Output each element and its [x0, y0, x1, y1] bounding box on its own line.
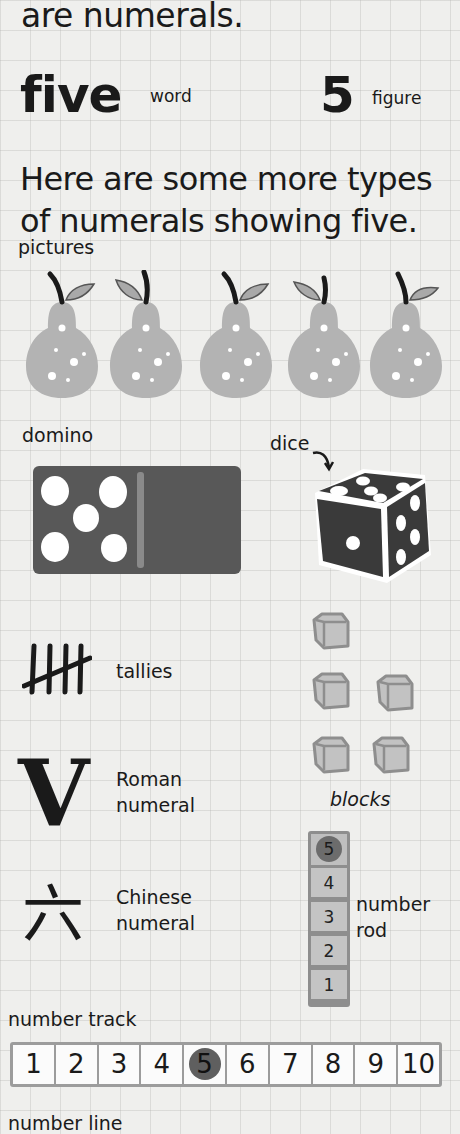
- pear-icon: [26, 274, 98, 398]
- tallies-label: tallies: [116, 660, 173, 682]
- domino-pip: [101, 534, 127, 562]
- intro-text: are numerals.: [21, 0, 243, 35]
- track-cell-highlight: 5: [189, 1048, 221, 1080]
- pear-icon: [110, 272, 182, 398]
- rod-cell: 4: [311, 866, 347, 897]
- chinese-label-line1: Chinese: [116, 886, 192, 908]
- tally-marks-icon: [22, 640, 92, 700]
- chinese-numeral: 六: [22, 880, 84, 950]
- pears-illustration: [20, 270, 450, 400]
- blocks-label: blocks: [330, 788, 390, 810]
- rod-label-line2: rod: [356, 919, 387, 941]
- roman-label-line2: numeral: [116, 794, 195, 816]
- domino-pip: [41, 476, 69, 506]
- pear-icon: [288, 278, 360, 398]
- domino-pip: [99, 476, 127, 508]
- blocks-illustration: [300, 600, 440, 780]
- dice-icon: [305, 445, 445, 585]
- rod-cell: 5: [311, 834, 347, 865]
- word-numeral: five: [20, 66, 121, 124]
- number-track-label: number track: [8, 1008, 137, 1030]
- track-cell: 7: [270, 1045, 311, 1084]
- domino-label: domino: [22, 424, 93, 446]
- block-icon: [378, 676, 412, 710]
- track-cell: 6: [227, 1045, 268, 1084]
- domino-pip: [41, 532, 69, 562]
- rod-cell: 1: [311, 968, 347, 999]
- rod-cell-highlight: 5: [316, 836, 342, 862]
- track-cell: 9: [355, 1045, 396, 1084]
- roman-numeral: V: [18, 748, 89, 840]
- rod-cell: 2: [311, 934, 347, 965]
- number-rod: 5 4 3 2 1: [308, 831, 350, 1007]
- rod-cell: 3: [311, 900, 347, 931]
- track-cell: 1: [13, 1045, 54, 1084]
- track-cell: 10: [398, 1045, 439, 1084]
- domino-divider: [137, 472, 144, 568]
- domino-pip: [73, 504, 99, 532]
- pictures-label: pictures: [18, 236, 94, 258]
- pear-icon: [200, 274, 272, 398]
- block-icon: [374, 738, 408, 772]
- block-icon: [314, 738, 348, 772]
- number-line-label: number line: [8, 1112, 122, 1134]
- block-icon: [314, 674, 348, 708]
- word-label: word: [150, 86, 192, 106]
- chinese-label-line2: numeral: [116, 912, 195, 934]
- figure-numeral: 5: [320, 66, 355, 124]
- track-cell: 8: [313, 1045, 354, 1084]
- track-cell: 5: [184, 1045, 225, 1084]
- domino-icon: [33, 466, 241, 574]
- roman-label-line1: Roman: [116, 768, 182, 790]
- block-icon: [314, 614, 348, 648]
- track-cell: 3: [99, 1045, 140, 1084]
- track-cell: 2: [56, 1045, 97, 1084]
- figure-label: figure: [372, 88, 421, 108]
- dice-label: dice: [270, 432, 309, 454]
- intro-paragraph: Here are some more types of numerals sho…: [20, 158, 460, 242]
- track-cell: 4: [141, 1045, 182, 1084]
- number-track: 1 2 3 4 5 6 7 8 9 10: [10, 1042, 442, 1087]
- pear-icon: [370, 274, 442, 398]
- rod-label-line1: number: [356, 893, 430, 915]
